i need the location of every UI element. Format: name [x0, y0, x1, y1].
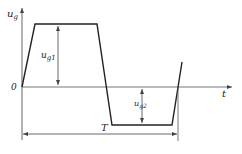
upper-amplitude-label: ug1: [41, 50, 56, 62]
lower-amplitude-label: ug2: [134, 99, 147, 110]
period-label: T: [101, 122, 109, 133]
x-axis-label: t: [222, 88, 227, 99]
trapezoidal-waveform: [22, 24, 182, 125]
waveform-diagram: ug t 0 ug1 ug2 T: [0, 0, 242, 154]
y-axis-label: ug: [7, 8, 18, 21]
origin-label: 0: [11, 82, 17, 92]
